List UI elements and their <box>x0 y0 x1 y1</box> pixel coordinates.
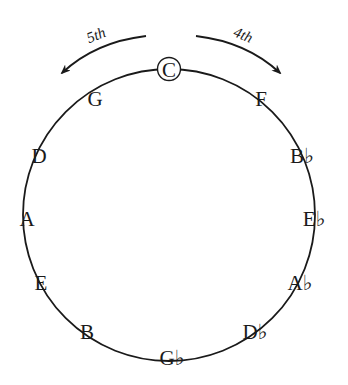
note-labels: C F B♭ E♭ A♭ D♭ G♭ B E A D G <box>19 58 325 370</box>
note-e: E <box>35 271 48 295</box>
note-e-flat: E♭ <box>303 207 326 231</box>
note-c: C <box>162 58 176 82</box>
note-b-flat: B♭ <box>290 144 314 168</box>
diagram-canvas: 5th 4th C F B♭ E♭ A♭ D♭ G♭ B E A D G <box>0 0 348 385</box>
note-d: D <box>31 144 46 168</box>
key-circle <box>23 69 315 361</box>
fifth-arrow-icon <box>62 36 146 73</box>
fourth-arrow-icon <box>196 36 280 73</box>
note-a-flat: A♭ <box>287 271 312 295</box>
note-a: A <box>19 207 35 231</box>
note-g-flat: G♭ <box>159 346 184 370</box>
note-f: F <box>255 87 267 111</box>
fifth-label: 5th <box>84 24 108 46</box>
note-g: G <box>87 87 102 111</box>
fourth-label: 4th <box>231 24 255 46</box>
note-b: B <box>80 320 94 344</box>
note-d-flat: D♭ <box>242 320 267 344</box>
circle-of-fifths-diagram: 5th 4th C F B♭ E♭ A♭ D♭ G♭ B E A D G <box>0 0 348 385</box>
